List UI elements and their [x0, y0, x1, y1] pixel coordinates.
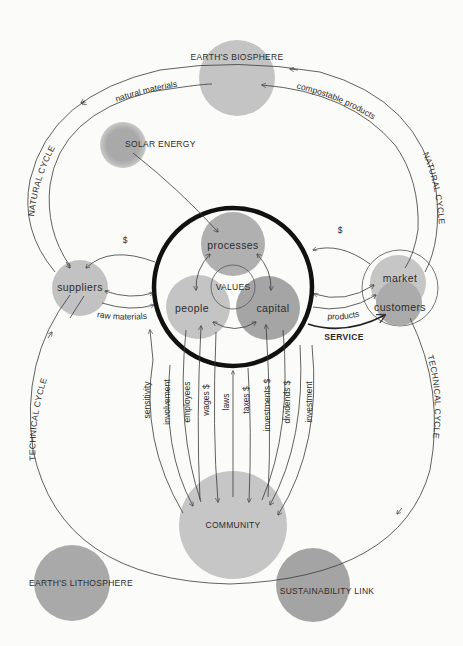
- natural-cycle-inner-arc-right: [262, 85, 418, 268]
- biosphere-label: EARTH'S BIOSPHERE: [190, 52, 283, 62]
- flow-sensitivity: sensitivity: [142, 381, 152, 419]
- suppliers-label: suppliers: [57, 281, 103, 293]
- technical-cycle-left-label: TECHNICAL CYCLE: [27, 376, 49, 461]
- technical-right-arrow: [397, 508, 402, 514]
- dollar-to-company-arrow: [313, 248, 370, 264]
- flow-laws: laws: [221, 393, 231, 410]
- capital-label: capital: [256, 302, 289, 314]
- natural-cycle-left-label: NATURAL CYCLE: [26, 143, 57, 217]
- products-label: products: [327, 309, 360, 322]
- solar-energy-label: SOLAR ENERGY: [125, 139, 196, 149]
- sustainability-link-circle: [276, 548, 350, 622]
- flow-investments: investments $: [262, 379, 272, 432]
- solar-to-processes-arrow: [133, 153, 218, 232]
- flow-wages: wages $: [201, 384, 211, 417]
- community-label: COMMUNITY: [205, 520, 260, 530]
- sustainability-link-label: SUSTAINABILITY LINK: [280, 586, 375, 596]
- flow-dividends: dividends $: [282, 380, 292, 423]
- customers-label: customers: [374, 301, 426, 313]
- community-flow-labels: sensitivity involvement employees wages …: [142, 379, 314, 432]
- service-label: SERVICE: [324, 332, 363, 342]
- sustainability-diagram: EARTH'S BIOSPHERE SOLAR ENERGY processes…: [0, 0, 463, 646]
- natural-cycle-right-label: NATURAL CYCLE: [421, 150, 447, 224]
- values-label: VALUES: [216, 282, 251, 292]
- natural-cycle-inner-arc: [49, 84, 212, 266]
- supplier-company-link-1: [105, 291, 153, 296]
- raw-materials-label: raw materials: [96, 309, 147, 322]
- flow-involvement: involvement: [162, 379, 172, 425]
- compost-arrow: [290, 69, 298, 70]
- lithosphere-label: EARTH'S LITHOSPHERE: [29, 578, 133, 588]
- supplier-company-link-2: [102, 303, 154, 308]
- natural-materials-label: natural materials: [114, 79, 178, 104]
- processes-label: processes: [207, 239, 258, 251]
- technical-left-arrow: [48, 332, 52, 338]
- dollar-right-label: $: [338, 225, 343, 235]
- compostable-products-label: compostable products: [296, 81, 377, 122]
- people-label: people: [175, 302, 209, 314]
- company-market-link-1: [314, 285, 374, 297]
- dollar-left-label: $: [123, 235, 128, 245]
- flow-taxes: taxes $: [241, 386, 251, 414]
- market-label: market: [383, 272, 418, 284]
- flow-employees: employees: [182, 381, 192, 422]
- flow-investment: investment: [304, 381, 314, 423]
